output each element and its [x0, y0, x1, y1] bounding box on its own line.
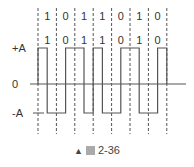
bit-label-inner: 1	[136, 34, 142, 46]
bit-label-top: 0	[118, 10, 124, 22]
manchester-waveform-diagram: 11001111001100+A0-A	[0, 0, 194, 167]
figure-glyph-icon	[86, 146, 95, 155]
waveform-path	[38, 48, 167, 113]
bit-label-top: 1	[99, 10, 105, 22]
bit-label-inner: 0	[155, 34, 161, 46]
bit-label-inner: 1	[99, 34, 105, 46]
bit-label-top: 1	[44, 10, 50, 22]
bit-label-top: 1	[136, 10, 142, 22]
zero-label: 0	[12, 78, 18, 90]
minus-a-label: -A	[12, 107, 24, 119]
figure-caption: ▲2-36	[0, 144, 194, 156]
triangle-icon: ▲	[74, 146, 83, 156]
bit-label-top: 0	[155, 10, 161, 22]
caption-label: 2-36	[98, 144, 120, 156]
bit-label-inner: 0	[63, 34, 69, 46]
bit-label-top: 1	[81, 10, 87, 22]
bit-label-top: 0	[63, 10, 69, 22]
bit-label-inner: 0	[118, 34, 124, 46]
bit-label-inner: 1	[44, 34, 50, 46]
bit-label-inner: 1	[81, 34, 87, 46]
plus-a-label: +A	[12, 42, 26, 54]
